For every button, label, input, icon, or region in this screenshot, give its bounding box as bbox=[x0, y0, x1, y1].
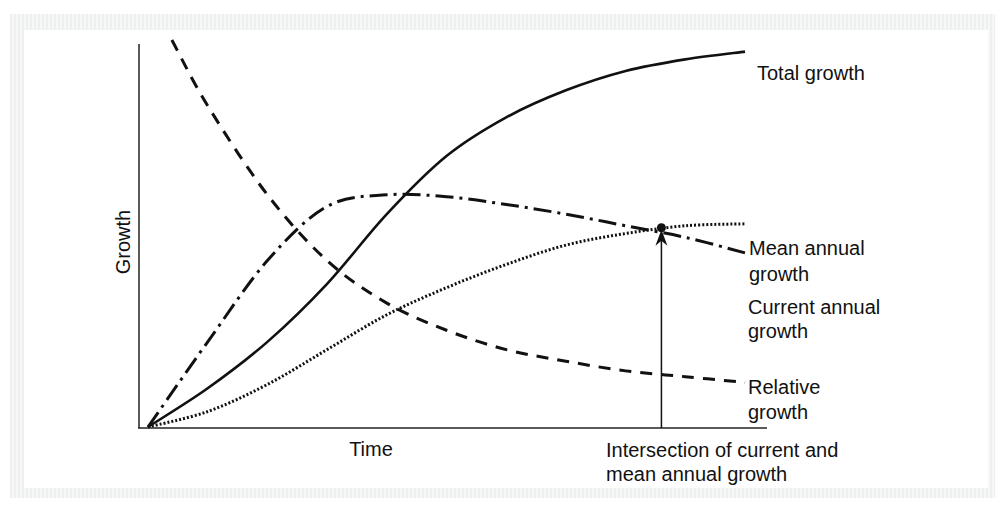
annotation-intersection-2: mean annual growth bbox=[606, 463, 787, 485]
annotation-intersection-1: Intersection of current and bbox=[606, 439, 838, 461]
label-total-growth: Total growth bbox=[757, 62, 865, 84]
label-current-annual-2: growth bbox=[748, 320, 808, 342]
label-mean-annual-1: Mean annual bbox=[749, 237, 865, 259]
total-growth-curve bbox=[148, 52, 745, 427]
label-current-annual-1: Current annual bbox=[748, 296, 880, 318]
intersection-point bbox=[657, 223, 666, 232]
label-mean-annual-2: growth bbox=[749, 263, 809, 285]
label-relative-1: Relative bbox=[748, 376, 820, 398]
x-axis-label: Time bbox=[349, 438, 393, 460]
mean-annual-growth-curve bbox=[148, 224, 745, 427]
label-relative-2: growth bbox=[748, 401, 808, 423]
y-axis-label: Growth bbox=[112, 210, 134, 274]
growth-diagram: Growth Time Total growth Mean annual gro… bbox=[0, 0, 995, 508]
relative-growth-curve bbox=[172, 40, 745, 382]
